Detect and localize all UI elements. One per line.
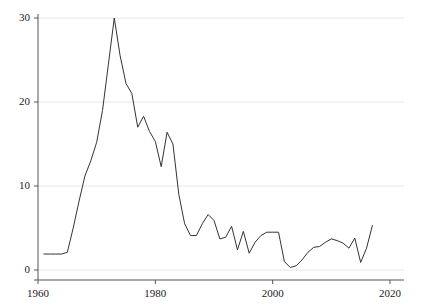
x-tick-label: 1980 bbox=[135, 288, 175, 299]
x-tick-label: 2000 bbox=[253, 288, 293, 299]
series-line bbox=[44, 18, 373, 267]
x-tick-label: 2020 bbox=[370, 288, 410, 299]
y-tick-label: 10 bbox=[19, 180, 30, 191]
x-tick-label: 1960 bbox=[18, 288, 58, 299]
y-tick-label: 30 bbox=[19, 12, 30, 23]
tick-marks bbox=[34, 18, 390, 284]
line-chart: 0102030 1960198020002020 bbox=[0, 0, 421, 306]
axes bbox=[34, 14, 404, 280]
y-tick-label: 20 bbox=[19, 96, 30, 107]
data-series-lines bbox=[44, 18, 373, 267]
gridlines bbox=[38, 18, 404, 270]
y-tick-label: 0 bbox=[25, 264, 31, 275]
chart-plot-area bbox=[0, 0, 421, 306]
